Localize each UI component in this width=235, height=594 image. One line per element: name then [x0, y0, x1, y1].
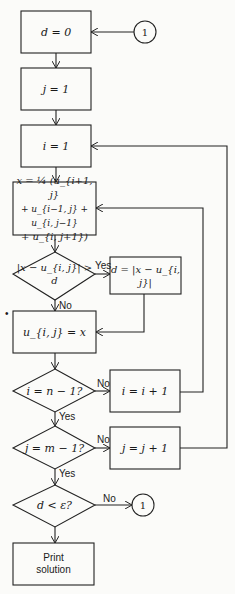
edge-label-i-no: No — [97, 378, 110, 389]
print-line-1: Print — [43, 552, 64, 564]
check-j-text: j = m − 1? — [25, 442, 84, 455]
inc-i-text: i = i + 1 — [122, 385, 168, 398]
check-converge-text: d < ε? — [37, 499, 72, 512]
node-update-x: x = ¼ (u_{i+1, j} + u_{i−1, j} + u_{i, j… — [13, 182, 96, 235]
node-check-i: i = n − 1? — [13, 380, 96, 402]
node-init-d: d = 0 — [21, 11, 91, 53]
print-line-2: solution — [36, 564, 70, 576]
connector-bottom-text: 1 — [140, 499, 146, 512]
node-assign-u: u_{i, j} = x — [13, 311, 96, 353]
edge-label-conv-no: No — [103, 493, 116, 504]
connector-top-label: 1 — [134, 21, 156, 43]
node-inc-i: i = i + 1 — [110, 370, 180, 412]
check-diff-text: |x − u_{i, j}| > d — [13, 261, 96, 287]
node-init-i: i = 1 — [21, 125, 91, 167]
edge-label-diff-yes: Yes — [95, 260, 111, 271]
node-init-j: j = 1 — [21, 68, 91, 110]
bullet-marker: • — [5, 308, 9, 319]
node-print-solution: Print solution — [13, 543, 94, 585]
edge-label-j-yes: Yes — [59, 468, 75, 479]
node-init-d-text: d = 0 — [41, 26, 71, 39]
connector-bottom-label: 1 — [132, 494, 154, 516]
node-init-i-text: i = 1 — [43, 140, 70, 153]
node-inc-j: j = j + 1 — [110, 427, 180, 469]
edge-label-j-no: No — [97, 434, 110, 445]
node-check-converge: d < ε? — [13, 494, 96, 516]
edge-label-i-yes: Yes — [59, 411, 75, 422]
set-d-text: d = |x − u_{i, j}| — [110, 263, 181, 289]
node-check-diff: |x − u_{i, j}| > d — [13, 262, 96, 286]
update-x-line-3: + u_{i, j+1}) — [21, 230, 88, 244]
node-check-j: j = m − 1? — [13, 437, 96, 459]
node-set-d: d = |x − u_{i, j}| — [110, 257, 181, 294]
edge-label-diff-no: No — [59, 300, 72, 311]
node-init-j-text: j = 1 — [43, 83, 70, 96]
connector-top-text: 1 — [142, 26, 148, 39]
inc-j-text: j = j + 1 — [122, 442, 168, 455]
update-x-line-2: + u_{i−1, j} + u_{i, j−1} — [13, 202, 96, 230]
update-x-line-1: x = ¼ (u_{i+1, j} — [13, 174, 96, 202]
assign-u-text: u_{i, j} = x — [23, 326, 86, 339]
check-i-text: i = n − 1? — [27, 385, 83, 398]
